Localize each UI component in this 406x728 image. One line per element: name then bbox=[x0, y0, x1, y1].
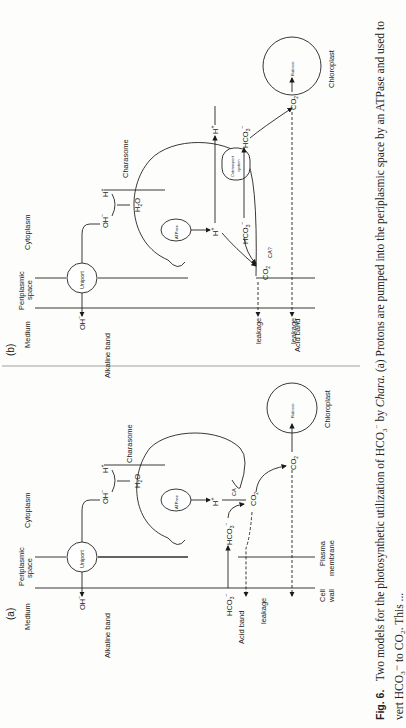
medium-label: Medium bbox=[23, 603, 32, 630]
caption-organism: Chara. bbox=[374, 375, 386, 407]
chloroplast-label-b: Chloroplast bbox=[327, 49, 336, 88]
panel-b-tag: (b) bbox=[5, 344, 16, 356]
hco3-to-co2-arrow bbox=[228, 504, 244, 518]
cytoplasm-label-b: Cytoplasm bbox=[23, 215, 32, 250]
periplasmic-space-label: space bbox=[25, 558, 34, 578]
co2-transfer-arrow bbox=[256, 466, 286, 492]
caption-text-1: Two models for the photosynthetic utiliz… bbox=[374, 432, 386, 681]
rubisco-label: Rubisco bbox=[290, 403, 295, 418]
cytoplasm-label: Cytoplasm bbox=[23, 493, 32, 528]
uniport-label: Uniport bbox=[79, 550, 85, 568]
plasma-membrane-label: Plasma bbox=[318, 540, 327, 566]
h-cytoplasm: H+ bbox=[99, 465, 110, 473]
uniport-oh-path-b bbox=[82, 224, 100, 263]
leakage-label-b2: leakage bbox=[289, 318, 298, 344]
leakage-label-b1: leakage bbox=[254, 318, 263, 344]
cell-wall-label-2: wall bbox=[327, 589, 336, 603]
oh-medium-b: OH− bbox=[76, 316, 87, 330]
panel-a: (a) Medium Periplasmic space Cytoplasm C… bbox=[5, 383, 336, 658]
hco3-charasome-b: HCO3− bbox=[239, 222, 251, 244]
h-charasome-b: H+ bbox=[209, 228, 220, 236]
leakage-label: leakage bbox=[259, 598, 268, 624]
alkaline-band-label: Alkaline band bbox=[103, 613, 112, 658]
hco3-medium: HCO3− bbox=[223, 594, 235, 616]
cell-wall-label: Cell bbox=[318, 589, 327, 602]
h-to-co2-arrow-b bbox=[222, 233, 256, 266]
figure-number: Fig. 6. bbox=[374, 690, 386, 720]
hco3-to-co2-arrow-b bbox=[250, 108, 292, 138]
caption-line-2: vert HCO₃⁻ to CO₂. This ... bbox=[392, 0, 406, 720]
oh-medium: OH− bbox=[76, 596, 87, 610]
rubisco-label-b: Rubisco bbox=[290, 61, 295, 76]
caption-line-1: Fig. 6. Two models for the photosyntheti… bbox=[370, 0, 392, 720]
charasome-label: Charasome bbox=[125, 424, 134, 463]
uniport-label-b: Uniport bbox=[79, 271, 85, 289]
cotransport-system-label: system bbox=[236, 159, 241, 172]
co2-charasome: CO2 bbox=[249, 492, 259, 506]
plasma-membrane-label-2: membrane bbox=[327, 540, 336, 576]
chloroplast-label: Chloroplast bbox=[323, 389, 332, 428]
ca-label-b: CA? bbox=[267, 247, 273, 258]
acid-band-label: Acid band bbox=[237, 611, 246, 644]
co2-cytoplasm-b: CO2 bbox=[289, 96, 299, 110]
h-charasome: H+ bbox=[209, 498, 220, 506]
atpase-label-b: ATPase bbox=[174, 224, 179, 239]
oh-cytoplasm: OH− bbox=[99, 490, 110, 504]
medium-label-b: Medium bbox=[23, 321, 32, 348]
hco3-cytoplasm-b: HCO3− bbox=[239, 126, 251, 148]
leakage-arrow-1 bbox=[246, 512, 252, 596]
figure-caption: Fig. 6. Two models for the photosyntheti… bbox=[370, 0, 406, 720]
h-out-b: H+ bbox=[209, 126, 220, 134]
co2-cytoplasm: CO2 bbox=[289, 456, 299, 470]
periplasmic-space-label-b: space bbox=[25, 280, 34, 300]
atpase-label: ATPase bbox=[174, 494, 179, 509]
charasome-label-b: Charasome bbox=[121, 139, 130, 178]
caption-text-3: (a) Protons are pumped into the periplas… bbox=[374, 21, 386, 375]
hco3-periplasm: HCO3− bbox=[223, 523, 235, 545]
water-split-path-b bbox=[112, 194, 130, 216]
cotransport-label: Cotransport bbox=[230, 155, 235, 177]
alkaline-band-label-b: Alkaline band bbox=[103, 333, 112, 378]
oh-cytoplasm-b: OH− bbox=[99, 214, 110, 228]
co2-charasome-b: CO2 bbox=[261, 266, 271, 280]
ca-label: CA bbox=[231, 488, 237, 496]
panel-b: (b) Medium Periplasmic space Cytoplasm U… bbox=[5, 37, 336, 378]
panel-a-tag: (a) bbox=[5, 608, 16, 620]
water-split-path bbox=[112, 470, 130, 492]
caption-text-2: by bbox=[374, 407, 386, 424]
uniport-oh-path bbox=[82, 500, 100, 542]
